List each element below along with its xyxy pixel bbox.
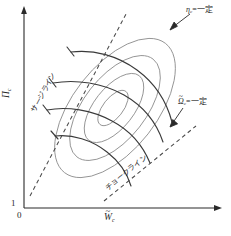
- y-axis-title: Πc: [2, 89, 13, 98]
- surge-line-group: [30, 14, 126, 196]
- y-axis-arrowhead: [21, 6, 27, 14]
- compressor-map-figure: Πc 1 0 ~Wc ηc=一定 ~Ωc=一定 サージライン チョークライン: [0, 0, 231, 236]
- y-axis-tick-label: 1: [11, 199, 16, 208]
- efficiency-contour-inner: [92, 85, 134, 130]
- x-axis-subscript: c: [112, 217, 115, 223]
- leader-arrow-group: [170, 14, 190, 127]
- origin-label-text: 0: [17, 210, 22, 220]
- efficiency-contour-outer: [31, 18, 198, 199]
- y-axis-symbol: Π: [1, 91, 11, 98]
- efficiency-contour-group: [31, 18, 198, 199]
- map-drawing: [0, 0, 231, 236]
- speed-value: 一定: [191, 97, 207, 106]
- efficiency-contour-3: [52, 40, 177, 176]
- x-axis-arrowhead: [214, 205, 222, 211]
- y-axis-tick-text: 1: [11, 198, 16, 208]
- speed-line-3: [53, 82, 163, 143]
- efficiency-leader-arrowhead: [170, 22, 177, 30]
- y-axis-subscript: c: [6, 89, 12, 92]
- speed-accent: ~: [179, 93, 183, 101]
- surge-line: [30, 14, 126, 196]
- speed-line-group: [43, 47, 172, 186]
- speed-symbol-wrap: ~Ω: [178, 98, 184, 106]
- x-axis-accent: ~: [105, 207, 110, 216]
- speed-annotation: ~Ωc=一定: [178, 98, 207, 107]
- efficiency-value: 一定: [197, 5, 213, 14]
- origin-label: 0: [17, 211, 22, 220]
- x-axis-symbol-wrap: ~W: [104, 213, 112, 223]
- efficiency-annotation: ηc=一定: [186, 6, 213, 15]
- x-axis-title: ~Wc: [104, 213, 115, 224]
- efficiency-contour-2: [73, 63, 155, 152]
